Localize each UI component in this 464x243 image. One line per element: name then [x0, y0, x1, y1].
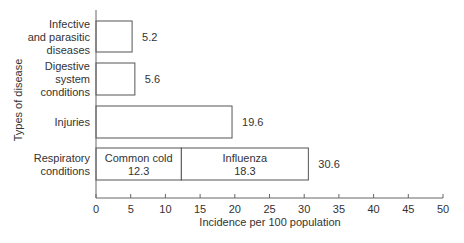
x-tick-label: 20 [229, 203, 241, 215]
bar-total-label: 5.2 [142, 31, 157, 43]
x-tick-label: 5 [128, 203, 134, 215]
x-tick-label: 35 [333, 203, 345, 215]
y-axis-title: Types of disease [12, 59, 24, 142]
x-tick-label: 30 [298, 203, 310, 215]
horizontal-bar-chart: 5.25.619.6Common cold12.3Influenza18.330… [0, 0, 464, 243]
bar-segment [96, 21, 132, 52]
segment-value: 18.3 [234, 165, 255, 177]
category-label: diseases [47, 44, 91, 56]
x-tick-label: 50 [437, 203, 449, 215]
x-axis-title: Incidence per 100 population [199, 216, 340, 228]
bar-segment [96, 63, 135, 95]
x-tick-label: 10 [159, 203, 171, 215]
x-tick-label: 15 [194, 203, 206, 215]
bar-total-label: 5.6 [145, 73, 160, 85]
category-labels: Infectiveand parasiticdiseasesDigestives… [28, 18, 91, 177]
bar-total-label: 19.6 [242, 116, 263, 128]
category-label: system [55, 73, 90, 85]
category-label: Respiratory [34, 152, 91, 164]
category-label: conditions [40, 86, 90, 98]
category-label: Digestive [45, 60, 90, 72]
bars-group: 5.25.619.6Common cold12.3Influenza18.330… [96, 21, 340, 180]
category-label: and parasitic [28, 31, 91, 43]
category-label: Injuries [55, 116, 91, 128]
segment-label: Common cold [105, 152, 173, 164]
bar-total-label: 30.6 [318, 158, 339, 170]
x-tick-label: 40 [367, 203, 379, 215]
x-tick-label: 0 [93, 203, 99, 215]
x-tick-label: 45 [402, 203, 414, 215]
x-tick-label: 25 [263, 203, 275, 215]
segment-label: Influenza [223, 152, 269, 164]
category-label: conditions [40, 165, 90, 177]
segment-value: 12.3 [128, 165, 149, 177]
category-label: Infective [49, 18, 90, 30]
bar-segment [96, 106, 232, 138]
x-axis-ticks: 05101520253035404550 [93, 194, 449, 215]
